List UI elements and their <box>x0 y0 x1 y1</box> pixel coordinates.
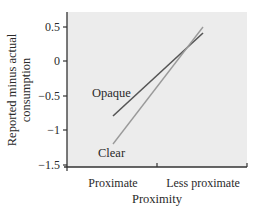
y-axis-title: Reported minus actual consumption <box>5 33 33 146</box>
y-axis-title-line1: Reported minus actual <box>5 33 19 146</box>
y-tick-label: 0 <box>54 54 60 68</box>
y-tick-label: −0.5 <box>38 89 60 103</box>
x-axis-title: Proximity <box>132 192 183 206</box>
x-tick-label-less-proximate: Less proximate <box>166 176 240 190</box>
y-tick-label: 0.5 <box>45 20 60 34</box>
chart: 0.5 0 −0.5 −1 −1.5 Proximate Less proxim… <box>0 0 257 214</box>
y-tick-labels: 0.5 0 −0.5 −1 −1.5 <box>38 20 60 172</box>
x-tick-label-proximate: Proximate <box>88 176 137 190</box>
series-label-opaque: Opaque <box>92 86 131 100</box>
y-axis-title-line2: consumption <box>19 57 33 122</box>
y-tick-label: −1.5 <box>38 158 60 172</box>
series-label-clear: Clear <box>98 146 126 160</box>
y-tick-label: −1 <box>47 123 60 137</box>
